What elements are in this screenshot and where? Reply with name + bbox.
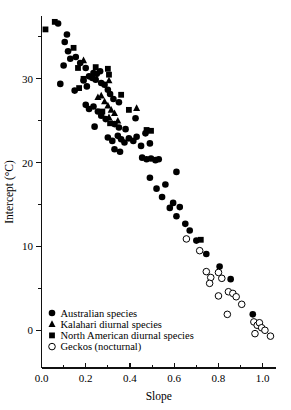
data-point xyxy=(116,99,123,106)
x-tick-label: 0.0 xyxy=(35,372,49,384)
data-point xyxy=(57,81,64,88)
data-point xyxy=(105,66,111,72)
legend-label-0: Australian species xyxy=(61,308,138,319)
data-points-group xyxy=(43,19,274,339)
data-point xyxy=(92,76,99,83)
data-point xyxy=(109,138,116,145)
data-point xyxy=(215,293,222,300)
data-point xyxy=(90,103,97,110)
data-point xyxy=(198,237,204,243)
data-point xyxy=(233,293,240,300)
y-axis-title: Intercept (°C) xyxy=(3,160,16,224)
data-point xyxy=(249,311,256,318)
y-tick-label: 20 xyxy=(22,157,34,169)
series-0 xyxy=(55,20,256,317)
x-tick-label: 0.2 xyxy=(79,372,93,384)
data-point xyxy=(122,126,129,133)
data-point xyxy=(126,107,132,113)
data-point xyxy=(224,311,231,318)
data-point xyxy=(72,54,79,61)
data-point xyxy=(147,140,154,147)
y-tick-label: 10 xyxy=(22,240,34,252)
data-point xyxy=(116,124,123,131)
legend-label-3: Geckos (nocturnal) xyxy=(61,341,142,353)
data-point xyxy=(64,31,71,38)
x-tick-label: 0.4 xyxy=(123,372,137,384)
data-point xyxy=(183,236,190,243)
data-point xyxy=(118,92,124,98)
legend-label-1: Kalahari diurnal species xyxy=(61,319,162,330)
data-point xyxy=(43,27,49,33)
scatter-plot-canvas: 01020300.00.20.40.60.81.0 Australian spe… xyxy=(0,0,291,410)
data-point xyxy=(170,200,177,207)
data-point xyxy=(176,204,183,211)
data-point xyxy=(182,221,189,228)
legend-marker-3 xyxy=(49,343,56,350)
data-point xyxy=(153,185,160,192)
data-point xyxy=(138,143,145,150)
data-point xyxy=(71,45,77,51)
legend-marker-0 xyxy=(49,310,56,317)
data-point xyxy=(147,174,154,181)
data-point xyxy=(262,327,269,334)
x-tick-label: 0.6 xyxy=(167,372,181,384)
data-point xyxy=(173,213,180,220)
data-point xyxy=(117,148,124,155)
axis-titles-group: SlopeIntercept (°C) xyxy=(3,160,172,403)
data-point xyxy=(76,85,82,91)
data-point xyxy=(84,83,91,90)
data-point xyxy=(133,133,140,140)
data-point xyxy=(93,64,99,70)
x-tick-label: 0.8 xyxy=(212,372,226,384)
data-point xyxy=(90,70,97,77)
x-tick-label: 1.0 xyxy=(256,372,270,384)
data-point xyxy=(132,115,139,122)
data-point xyxy=(114,117,121,124)
legend-label-2: North American diurnal species xyxy=(61,330,194,341)
data-point xyxy=(52,19,58,25)
data-point xyxy=(238,301,245,308)
data-point xyxy=(155,156,162,163)
data-point xyxy=(173,169,180,176)
data-point xyxy=(61,39,68,46)
legend-marker-2 xyxy=(49,333,55,339)
chart-legend: Australian speciesKalahari diurnal speci… xyxy=(49,308,194,354)
data-point xyxy=(107,120,113,126)
data-point xyxy=(133,104,140,111)
data-point xyxy=(99,109,105,115)
scatter-chart-figure: 01020300.00.20.40.60.81.0 Australian spe… xyxy=(0,0,291,410)
data-point xyxy=(196,247,203,254)
data-point xyxy=(227,276,234,283)
x-axis-title: Slope xyxy=(146,390,172,403)
legend-marker-1 xyxy=(49,320,56,327)
data-point xyxy=(252,330,259,337)
data-point xyxy=(91,123,98,130)
data-point xyxy=(159,194,166,201)
data-point xyxy=(101,98,108,105)
data-point xyxy=(162,181,169,188)
series-3 xyxy=(183,236,274,340)
data-point xyxy=(186,227,193,234)
y-tick-label: 0 xyxy=(28,324,34,336)
data-point xyxy=(60,62,67,69)
data-point xyxy=(148,128,154,134)
data-point xyxy=(267,333,274,340)
data-point xyxy=(81,76,87,82)
data-point xyxy=(75,65,81,71)
data-point xyxy=(206,280,213,287)
data-point xyxy=(82,65,89,72)
data-point xyxy=(105,77,112,84)
data-point xyxy=(203,251,210,258)
data-point xyxy=(65,48,72,55)
y-tick-label: 30 xyxy=(22,73,34,85)
data-point xyxy=(203,268,210,275)
data-point xyxy=(218,275,225,282)
data-point xyxy=(106,72,112,78)
data-point xyxy=(110,96,117,103)
